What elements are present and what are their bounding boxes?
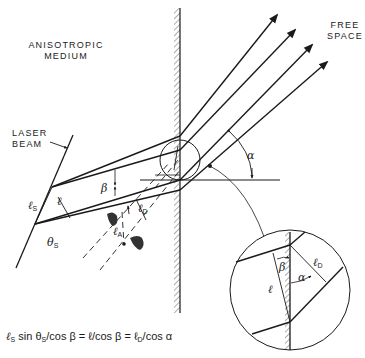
subscript: S [54,242,59,249]
laser-beam-line [16,135,73,268]
symbol-text: ℓ [57,195,62,208]
symbol-text: θ [47,236,54,249]
label-line: BEAM [12,139,52,150]
ell-a-symbol: ℓA [113,226,122,241]
subscript: D [318,262,323,269]
equation-term: /cos β = ℓ/cos β = ℓ [46,330,137,342]
inset-ell-d-symbol: ℓD [313,257,323,272]
ell-d-symbol: ℓD [138,203,148,218]
wavefront-marker [107,212,118,226]
subscript: D [143,208,148,215]
wavefront-marker [130,236,144,250]
beta-symbol: β [101,183,107,195]
diagram-canvas: ANISOTROPIC MEDIUM FREE SPACE LASER BEAM… [0,0,365,358]
label-line: LASER [12,128,52,139]
subscript: S [33,205,38,212]
symbol-text: α [247,149,254,162]
equation: ℓS sin θS/cos β = ℓ/cos β = ℓD/cos α [6,330,172,343]
inset-detail [230,230,350,350]
label-line: FREE [327,20,363,31]
inset-ell-symbol: ℓ [268,284,273,296]
dashed-wavefronts [83,160,180,270]
symbol-text: ℓ [268,283,273,296]
alpha-symbol: α [247,150,254,162]
subscript: A [118,231,123,238]
theta-s-symbol: θS [47,237,58,252]
equation-term: /cos α [143,330,173,342]
interface-wall [174,8,180,313]
ell-symbol: ℓ [57,196,62,208]
label-line: ANISOTROPIC [26,40,106,51]
ell-s-symbol: ℓS [28,200,37,215]
anisotropic-medium-label: ANISOTROPIC MEDIUM [26,40,106,62]
inset-alpha-symbol: α [298,272,305,284]
exit-rays [180,15,327,190]
symbol-text: β [279,261,285,274]
inset-beta-symbol: β [279,262,285,274]
symbol-text: α [298,271,305,284]
free-space-label: FREE SPACE [327,20,363,42]
symbol-text: β [101,182,107,195]
label-line: SPACE [327,31,363,42]
equation-term: sin θ [15,330,41,342]
label-line: MEDIUM [26,51,106,62]
laser-beam-label: LASER BEAM [12,128,52,150]
